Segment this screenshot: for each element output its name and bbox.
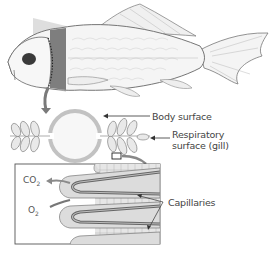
label-o2: O2	[28, 205, 39, 217]
label-co2: CO2	[23, 175, 40, 187]
fish-illustration	[8, 4, 268, 114]
label-capillaries: Capillaries	[168, 197, 215, 208]
zoom-callout-box	[112, 153, 121, 159]
co2-subscript: 2	[36, 180, 40, 187]
label-respiratory-surface-line1: Respiratory	[172, 129, 224, 140]
co2-text: CO	[23, 175, 36, 185]
label-body-surface: Body surface	[152, 111, 212, 122]
diagram: Body surface Respiratory surface (gill) …	[0, 0, 271, 254]
label-respiratory-surface-line2: surface (gill)	[172, 140, 229, 151]
o2-subscript: 2	[35, 210, 39, 217]
